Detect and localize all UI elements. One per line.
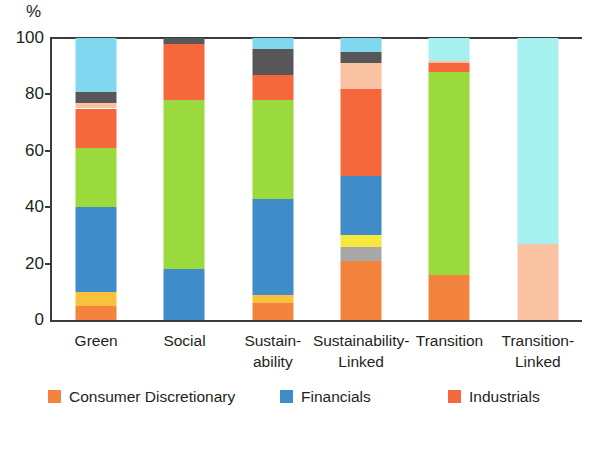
bar-segment[interactable] <box>429 63 470 71</box>
bar-segment[interactable] <box>76 38 117 92</box>
y-axis-tick-label: 80 <box>25 84 44 104</box>
bar-segment[interactable] <box>252 295 293 303</box>
legend-item[interactable]: Financials <box>280 385 448 408</box>
chart-legend: Consumer DiscretionaryFinancialsIndustri… <box>48 385 598 408</box>
bar-segment[interactable] <box>164 38 205 44</box>
legend-swatch-icon <box>48 390 61 403</box>
stacked-bar[interactable] <box>341 38 382 320</box>
bar-segment[interactable] <box>164 44 205 100</box>
bar-segment[interactable] <box>76 103 117 109</box>
x-axis-category-label: Transition- Linked <box>476 330 598 372</box>
stacked-bar[interactable] <box>429 38 470 320</box>
bar-segment[interactable] <box>341 63 382 88</box>
bar-segment[interactable] <box>341 52 382 63</box>
y-axis-tick-mark <box>45 150 52 152</box>
bar-segment[interactable] <box>76 92 117 103</box>
bar-segment[interactable] <box>429 275 470 320</box>
legend-swatch-icon <box>448 390 461 403</box>
bar-segment[interactable] <box>76 109 117 148</box>
bar-group <box>317 38 405 320</box>
y-axis-tick-label: 100 <box>16 28 44 48</box>
y-axis-tick-label: 0 <box>35 310 44 330</box>
bar-segment[interactable] <box>429 61 470 64</box>
bar-segment[interactable] <box>341 38 382 52</box>
bar-segment[interactable] <box>76 292 117 306</box>
y-axis-tick-label: 60 <box>25 141 44 161</box>
y-axis-unit-label: % <box>26 2 41 22</box>
stacked-bar[interactable] <box>517 38 558 320</box>
legend-label: Consumer Discretionary <box>69 388 235 406</box>
y-axis-tick-mark <box>45 263 52 265</box>
bar-segment[interactable] <box>252 100 293 199</box>
stacked-bar[interactable] <box>164 38 205 320</box>
legend-label: Financials <box>301 388 371 406</box>
bar-segment[interactable] <box>341 247 382 261</box>
bar-group <box>140 38 228 320</box>
legend-item[interactable]: Industrials <box>448 385 598 408</box>
bar-segment[interactable] <box>76 306 117 320</box>
legend-swatch-icon <box>280 390 293 403</box>
bar-segment[interactable] <box>517 244 558 320</box>
y-axis-tick-mark <box>45 93 52 95</box>
bar-group <box>52 38 140 320</box>
stacked-bar[interactable] <box>76 38 117 320</box>
bar-segment[interactable] <box>341 235 382 246</box>
bar-segment[interactable] <box>252 303 293 320</box>
bar-segment[interactable] <box>76 207 117 292</box>
bar-segment[interactable] <box>517 38 558 244</box>
y-axis-tick-label: 40 <box>25 197 44 217</box>
bar-group <box>494 38 582 320</box>
bar-segment[interactable] <box>429 72 470 275</box>
bar-segment[interactable] <box>341 89 382 176</box>
y-axis-tick-mark <box>45 206 52 208</box>
bar-segment[interactable] <box>429 38 470 61</box>
y-axis-tick-label: 20 <box>25 254 44 274</box>
bar-segment[interactable] <box>76 148 117 207</box>
bar-segment[interactable] <box>252 199 293 295</box>
bar-segment[interactable] <box>164 269 205 320</box>
bar-segment[interactable] <box>252 75 293 100</box>
bar-segment[interactable] <box>164 100 205 269</box>
bar-group <box>229 38 317 320</box>
bar-segment[interactable] <box>341 176 382 235</box>
plot-area: 020406080100 GreenSocialSustain- ability… <box>50 38 582 322</box>
legend-item[interactable]: Consumer Discretionary <box>48 385 280 408</box>
legend-label: Industrials <box>469 388 540 406</box>
bar-segment[interactable] <box>252 38 293 49</box>
bar-group <box>405 38 493 320</box>
stacked-bar-chart-figure: % 020406080100 GreenSocialSustain- abili… <box>0 0 598 474</box>
bar-segment[interactable] <box>341 261 382 320</box>
stacked-bar[interactable] <box>252 38 293 320</box>
bar-segment[interactable] <box>252 49 293 74</box>
